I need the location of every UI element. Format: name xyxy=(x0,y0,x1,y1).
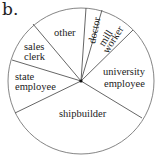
slice-dividers xyxy=(12,8,142,118)
slice-label-shipbuilder: shipbuilder xyxy=(59,108,107,119)
slice-label-other: other xyxy=(54,27,76,38)
divider-other-doctor xyxy=(81,8,86,81)
pie-chart: other doctor mill worker university empl… xyxy=(0,0,160,160)
slice-label-university: university xyxy=(103,66,146,77)
slice-label-state-employee: employee xyxy=(15,81,56,92)
slice-label-clerk: clerk xyxy=(24,51,46,62)
slice-label-university-employee: employee xyxy=(104,78,145,89)
pie-center xyxy=(79,79,82,82)
